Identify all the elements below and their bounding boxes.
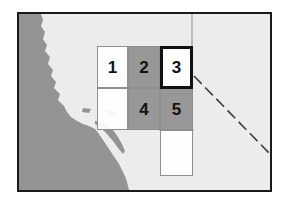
grid-cell-label-5: 5 xyxy=(172,101,181,118)
grid-cell-label-1: 1 xyxy=(108,59,117,76)
grid-cell-2[interactable]: 2 xyxy=(128,46,160,88)
grid-cell-3[interactable]: 3 xyxy=(160,46,193,89)
grid-cell-row2-col1[interactable] xyxy=(97,88,128,130)
map-figure: 1 2 3 4 5 xyxy=(0,0,288,206)
map-frame: 1 2 3 4 5 xyxy=(17,12,272,192)
grid-cell-label-4: 4 xyxy=(139,101,148,118)
grid-cell-row3-col3[interactable] xyxy=(160,130,193,176)
grid-cell-label-3: 3 xyxy=(172,59,181,76)
grid-cell-4[interactable]: 4 xyxy=(128,88,160,130)
grid-cell-1[interactable]: 1 xyxy=(97,46,128,88)
grid-cell-label-2: 2 xyxy=(139,59,148,76)
grid-cell-5[interactable]: 5 xyxy=(160,88,193,130)
grid-overlay: 1 2 3 4 5 xyxy=(19,14,270,190)
